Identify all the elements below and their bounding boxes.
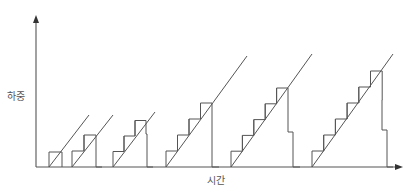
staircase-group-1 (49, 115, 89, 167)
load-line (166, 56, 247, 167)
y-axis-label: 하중 (7, 88, 25, 103)
staircase-outline (231, 88, 300, 167)
staircase-group-6 (312, 54, 393, 167)
staircase-load-diagram (0, 0, 417, 195)
staircase-group-3 (113, 112, 155, 167)
load-line (231, 54, 312, 167)
staircase-group-4 (166, 56, 247, 167)
x-axis-label: 시간 (207, 172, 225, 187)
staircase-group-2 (72, 115, 113, 167)
load-line (113, 112, 155, 167)
staircase-outline (166, 103, 219, 167)
load-line (312, 54, 393, 167)
staircase-groups (49, 54, 393, 167)
load-line (72, 115, 113, 167)
staircase-outline (113, 121, 153, 168)
load-line (49, 115, 89, 167)
staircase-outline (72, 135, 102, 167)
x-axis-arrow-icon (395, 164, 403, 170)
y-axis-arrow-icon (33, 15, 39, 23)
staircase-group-5 (231, 54, 312, 167)
staircase-outline (312, 71, 393, 167)
